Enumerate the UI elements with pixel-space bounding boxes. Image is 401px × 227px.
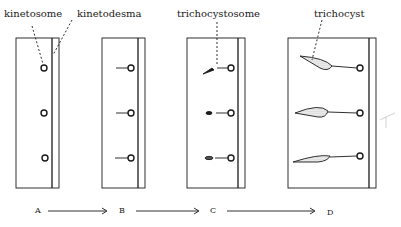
leader-kinetodesma (53, 20, 72, 55)
panel-b (102, 38, 145, 188)
panel-a (16, 20, 72, 188)
stage-label-c: C (210, 206, 216, 215)
panel-c (187, 22, 245, 188)
trichocystosome-icon (203, 68, 214, 74)
stage-label-d: D (327, 208, 333, 217)
kinetosome-icon (42, 155, 48, 161)
trichocyst-icon (300, 56, 332, 70)
panel-d (288, 20, 376, 188)
leader-kinetosome (32, 26, 43, 64)
diagram-canvas (0, 0, 401, 227)
stage-label-b: B (119, 206, 125, 215)
leader-trichocyst (312, 20, 322, 60)
stage-label-a: A (35, 206, 41, 215)
kinetosome-icon (41, 110, 47, 116)
progression-arrows (48, 208, 315, 214)
kinetosome-icon (41, 65, 47, 71)
